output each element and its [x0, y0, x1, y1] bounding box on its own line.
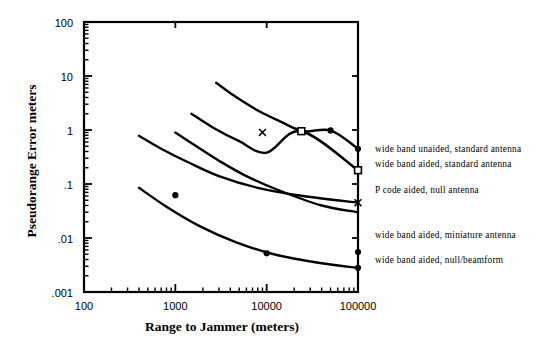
series-annotation: wide band aided, miniature antenna: [375, 230, 516, 240]
y-tick-label: .001: [52, 287, 73, 299]
y-tick-label: 100: [55, 17, 73, 29]
x-tick-label: 1000: [163, 300, 187, 312]
marker-open-square: [355, 167, 362, 174]
y-axis-title: Pseudorange Error meters: [24, 84, 39, 237]
series-annotation: wide band aided, null/beamform: [375, 255, 504, 265]
series-annotation: P code aided, null antenna: [375, 185, 479, 195]
marker-filled-circle: [355, 249, 361, 255]
marker-open-square: [298, 128, 305, 135]
marker-filled-circle: [327, 127, 333, 133]
marker-filled-circle: [355, 146, 361, 152]
chart-figure: .001.01.1110100 100100010000100000 Pseud…: [0, 0, 547, 347]
y-tick-label: 1: [67, 125, 73, 137]
y-tick-label: .1: [64, 179, 73, 191]
marker-filled-circle: [264, 250, 270, 256]
marker-filled-circle: [355, 265, 361, 271]
series-annotation: wide band aided, standard antenna: [375, 159, 512, 169]
x-tick-label: 100000: [340, 300, 377, 312]
x-tick-label: 100: [75, 300, 93, 312]
y-tick-label: 10: [61, 71, 73, 83]
marker-filled-circle: [172, 192, 178, 198]
x-axis-title: Range to Jammer (meters): [145, 319, 299, 334]
x-tick-label: 10000: [251, 300, 282, 312]
y-tick-label: .01: [58, 233, 73, 245]
chart-background: [0, 0, 547, 347]
chart-svg: .001.01.1110100 100100010000100000 Pseud…: [0, 0, 547, 347]
series-annotation: wide band unaided, standard antenna: [375, 144, 521, 154]
